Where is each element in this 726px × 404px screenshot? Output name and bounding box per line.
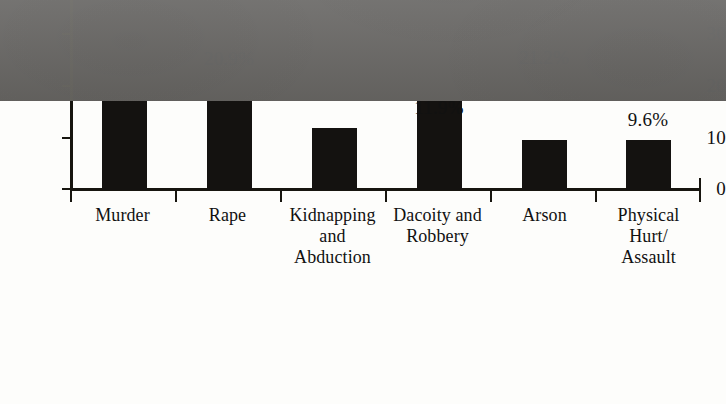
category-label-rape-line-1: Rape [175,205,280,226]
bar-murder [102,81,147,190]
x-tick-1 [175,191,177,202]
category-label-dacoity-line-2: Robbery [383,226,492,247]
category-label-physical-hurt-assault: Physical Hurt/ Assault [596,205,701,268]
x-tick-3 [385,191,387,202]
category-label-murder-line-1: Murder [70,205,175,226]
bar-kidnapping-and-abduction [312,128,357,190]
bar-physical-hurt-assault [626,140,671,190]
category-label-kidnapping-line-2: and [276,226,389,247]
y-tick-20 [62,85,71,87]
y-tick-30 [62,33,71,35]
category-label-rape: Rape [175,205,280,226]
category-label-arson: Arson [492,205,597,226]
plot-area: 50 40 30 20 10 0 40% 20.9% 46.7% 11.9% 2… [0,0,726,297]
y-tick-0 [62,188,71,190]
category-label-murder: Murder [70,205,175,226]
x-tick-6 [699,191,701,202]
y-axis-label-10: 10 [672,128,726,147]
x-tick-4 [490,191,492,202]
category-label-physical-line-1: Physical [596,205,701,226]
data-label-rape: 20.9% [184,49,274,69]
x-tick-0 [70,191,72,202]
data-label-arson: 21.2% [499,48,589,68]
y-tick-10 [62,137,71,139]
category-label-kidnapping-and-abduction: Kidnapping and Abduction [276,205,389,268]
data-label-physical-hurt-assault: 9.6% [603,110,693,130]
bar-arson [522,140,567,190]
category-label-physical-line-2: Hurt/ [596,226,701,247]
category-label-dacoity-and-robbery: Dacoity and Robbery [383,205,492,247]
bar-chart: 50 40 30 20 10 0 40% 20.9% 46.7% 11.9% 2… [0,0,726,101]
category-label-arson-line-1: Arson [492,205,597,226]
category-label-physical-line-3: Assault [596,247,701,268]
y-axis-line [70,0,73,190]
y-axis-label-20: 20 [672,76,726,95]
category-label-kidnapping-line-3: Abduction [276,247,389,268]
category-label-kidnapping-line-1: Kidnapping [276,205,389,226]
x-tick-2 [280,191,282,202]
y-axis-label-30: 30 [672,24,726,43]
category-label-dacoity-line-1: Dacoity and [383,205,492,226]
x-tick-5 [595,191,597,202]
data-label-dacoity-and-robbery: 11.9% [394,98,484,118]
bar-rape [207,0,252,190]
